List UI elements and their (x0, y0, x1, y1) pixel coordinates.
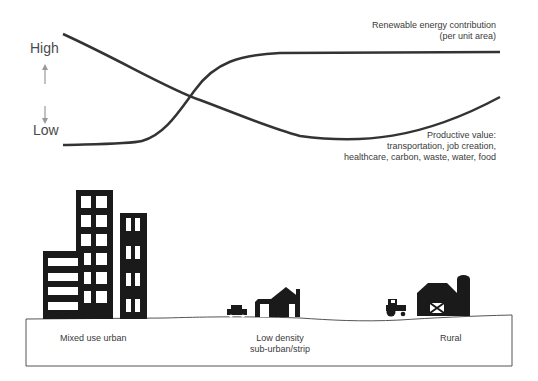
tractor-icon (386, 299, 406, 317)
zone-rural-label: Rural (440, 333, 462, 344)
zone-urban-label: Mixed use urban (60, 333, 127, 344)
arrow-up-icon (42, 64, 48, 84)
barn-icon (417, 275, 470, 316)
renewable-label-line2: (per unit area) (296, 31, 496, 42)
car-icon (227, 305, 247, 318)
productive-label-line3: healthcare, carbon, waste, water, food (296, 152, 496, 163)
urban-buildings-icon (43, 190, 147, 319)
productive-value-curve (63, 34, 500, 139)
productive-label: Productive value: transportation, job cr… (296, 130, 496, 163)
productive-label-line2: transportation, job creation, (296, 141, 496, 152)
productive-label-line1: Productive value: (296, 130, 496, 141)
house-icon (255, 287, 300, 317)
renewable-label: Renewable energy contribution (per unit … (296, 20, 496, 42)
zone-suburban-line2: sub-urban/strip (245, 344, 315, 355)
zone-suburban-label: Low density sub-urban/strip (245, 333, 315, 355)
diagram-canvas (0, 0, 538, 381)
zone-suburban-line1: Low density (245, 333, 315, 344)
renewable-label-line1: Renewable energy contribution (296, 20, 496, 31)
axis-high-label: High (30, 40, 59, 56)
axis-low-label: Low (33, 122, 59, 138)
